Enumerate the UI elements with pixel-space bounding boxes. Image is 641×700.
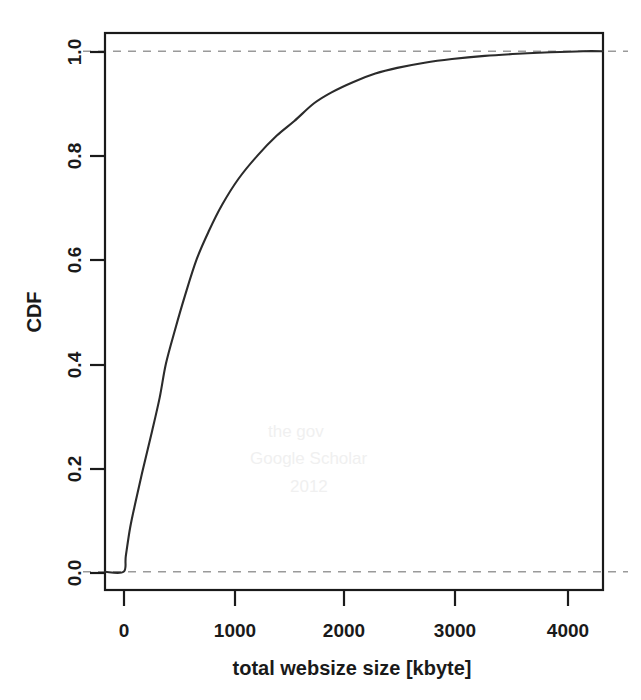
- x-tick-label-0: 0: [119, 620, 130, 641]
- y-tick-label-0.2: 0.2: [64, 456, 85, 482]
- chart-canvas: the gov Google Scholar 2012 1.0 0.8 0.6 …: [0, 0, 641, 700]
- x-tick-label-4000: 4000: [547, 620, 589, 641]
- y-tick-label-0.4: 0.4: [64, 351, 85, 378]
- y-axis-ticks: [90, 52, 105, 573]
- x-axis-ticks: [124, 590, 568, 606]
- ghost-text-2: 2012: [290, 477, 328, 496]
- x-tick-label-2000: 2000: [323, 620, 365, 641]
- x-axis-tick-labels: 0 1000 2000 3000 4000: [119, 620, 589, 641]
- x-axis-title: total websize size [kbyte]: [233, 657, 472, 679]
- y-axis-tick-labels: 1.0 0.8 0.6 0.4 0.2 0.0: [64, 39, 85, 586]
- y-axis-title: CDF: [23, 291, 45, 332]
- cdf-chart-figure: the gov Google Scholar 2012 1.0 0.8 0.6 …: [0, 0, 641, 700]
- y-tick-label-0.8: 0.8: [64, 143, 85, 169]
- y-tick-label-0.6: 0.6: [64, 247, 85, 273]
- y-tick-label-1.0: 1.0: [64, 39, 85, 65]
- scan-artifacts: the gov Google Scholar 2012: [250, 422, 368, 496]
- y-tick-label-0.0: 0.0: [64, 560, 85, 586]
- reference-lines: [83, 51, 628, 572]
- ghost-text-0: the gov: [268, 422, 324, 441]
- ghost-text-1: Google Scholar: [250, 449, 368, 468]
- x-tick-label-3000: 3000: [434, 620, 476, 641]
- cdf-curve-line: [105, 51, 603, 573]
- x-tick-label-1000: 1000: [214, 620, 256, 641]
